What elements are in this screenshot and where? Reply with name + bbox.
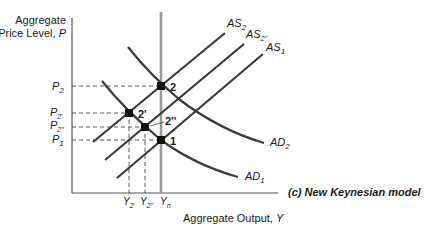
point-2p-label: 2' <box>138 108 147 120</box>
ad1-curve <box>102 81 238 177</box>
p2p-label: P2' <box>50 106 63 120</box>
p1-label: P1 <box>52 133 64 148</box>
new-keynesian-diagram: 2 2' 2'' 1 P2 P2' P2'' P1 Y2' Y2'' Yn AS… <box>0 0 431 238</box>
x-axis-title: Aggregate Output, Y <box>183 212 284 224</box>
as2pp-label: AS2'' <box>245 28 268 42</box>
p2pp-label: P2'' <box>50 119 65 133</box>
caption: (c) New Keynesian model <box>288 186 422 198</box>
yn-label: Yn <box>160 196 171 209</box>
guide-lines <box>72 86 161 193</box>
ad2-label: AD2 <box>269 136 290 151</box>
point-2p <box>125 109 133 117</box>
point-1 <box>157 136 165 144</box>
point-2-label: 2 <box>170 81 176 93</box>
as1-label: AS1 <box>265 41 285 56</box>
point-1-label: 1 <box>170 135 176 147</box>
y2p-label: Y2' <box>123 196 136 209</box>
point-2pp-label: 2'' <box>165 115 177 127</box>
y-axis-title-line2: Price Level, P <box>0 27 67 39</box>
point-2pp <box>141 123 149 131</box>
y-axis-title-line1: Aggregate <box>15 14 66 26</box>
p2-label: P2 <box>52 80 64 95</box>
y2pp-label: Y2'' <box>140 196 154 209</box>
as2-label: AS2 <box>226 17 247 32</box>
ad1-label: AD1 <box>244 170 265 185</box>
point-2 <box>157 82 165 90</box>
